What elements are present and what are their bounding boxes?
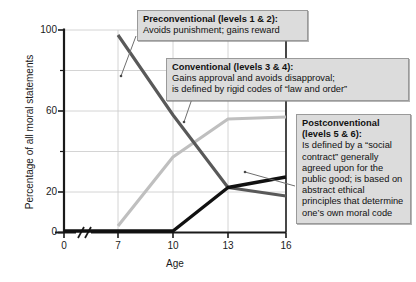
- y-tick-label-100: 100: [31, 25, 57, 35]
- x-axis-title: Age: [145, 258, 205, 269]
- callout-conventional-line1: Gains approval and avoids disapproval;: [172, 73, 403, 84]
- callout-conventional-header: Conventional (levels 3 & 4):: [172, 62, 403, 73]
- callout-preconventional: Preconventional (levels 1 & 2): Avoids p…: [137, 10, 308, 41]
- callout-conventional: Conventional (levels 3 & 4): Gains appro…: [166, 58, 409, 101]
- x-tick-label-13: 13: [217, 241, 239, 251]
- callout-postconventional: Postconventional (levels 5 & 6): Is defi…: [296, 114, 411, 224]
- callout-conventional-line2: is defined by rigid codes of “law and or…: [172, 84, 403, 95]
- x-tick-label-10: 10: [162, 241, 184, 251]
- gridlines-horizontal: [64, 30, 286, 192]
- x-tick-label-16: 16: [275, 241, 297, 251]
- x-tick-label-0: 0: [53, 241, 75, 251]
- callout-preconventional-header: Preconventional (levels 1 & 2):: [143, 14, 302, 25]
- callout-postconventional-body: Is defined by a “social contract” genera…: [302, 140, 405, 218]
- x-tick-label-7: 7: [107, 241, 129, 251]
- callout-preconventional-body: Avoids punishment; gains reward: [143, 25, 302, 36]
- series-line-postconventional: [64, 177, 286, 231]
- y-axis-title: Percentage of all moral statements: [24, 42, 35, 222]
- chart-figure: 100 60 20 0 0 7 10 13 16 Age Percentage …: [0, 0, 416, 282]
- callout-postconventional-header-line1: Postconventional: [302, 118, 405, 129]
- callout-postconventional-header-line2: (levels 5 & 6):: [302, 129, 405, 140]
- y-tick-label-0: 0: [31, 227, 57, 237]
